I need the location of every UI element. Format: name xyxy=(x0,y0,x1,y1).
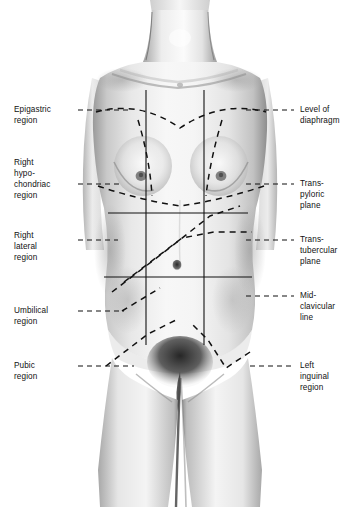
label-transtubercular-plane: Trans- tubercular plane xyxy=(300,234,337,267)
label-pubic-region: Pubic region xyxy=(14,360,37,382)
right-breast xyxy=(114,136,172,196)
label-left-inguinal-region: Left inguinal region xyxy=(300,360,329,393)
navel xyxy=(172,260,181,270)
label-midclavicular-line: Mid- clavicular line xyxy=(300,290,335,323)
label-umbilical-region: Umbilical region xyxy=(14,305,48,327)
label-right-hypochondriac-region: Right hypo- chondriac region xyxy=(14,157,50,201)
label-epigastric-region: Epigastric region xyxy=(14,104,51,126)
label-right-lateral-region: Right lateral region xyxy=(14,230,37,263)
left-breast xyxy=(190,136,248,196)
label-transpyloric-plane: Trans- pyloric plane xyxy=(300,178,324,211)
label-level-of-diaphragm: Level of diaphragm xyxy=(300,104,340,126)
